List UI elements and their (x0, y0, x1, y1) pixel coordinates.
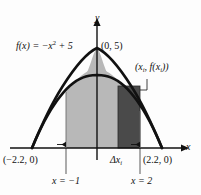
vertex-point-label: (0, 5) (101, 41, 123, 51)
left-root-label: (−2.2, 0) (3, 155, 38, 165)
delta-left-arrow-icon (62, 142, 67, 147)
right-root-label: (2.2, 0) (143, 155, 172, 165)
x-right-bound-label: x = 2 (131, 176, 152, 186)
parabola-riemann-figure: f(x) = −x2 + 5 (0, 5) y x (xi, f(xi)) (−… (0, 0, 201, 195)
y-axis-label: y (95, 13, 99, 23)
x-left-bound-label: x = −1 (52, 176, 80, 186)
function-label: f(x) = −x2 + 5 (16, 41, 73, 51)
sample-point-label: (xi, f(xi)) (135, 62, 169, 72)
point-label-leader (140, 79, 147, 90)
plot-canvas (0, 0, 201, 195)
x-axis-label: x (186, 142, 190, 152)
delta-x-label: Δxi (110, 155, 122, 165)
